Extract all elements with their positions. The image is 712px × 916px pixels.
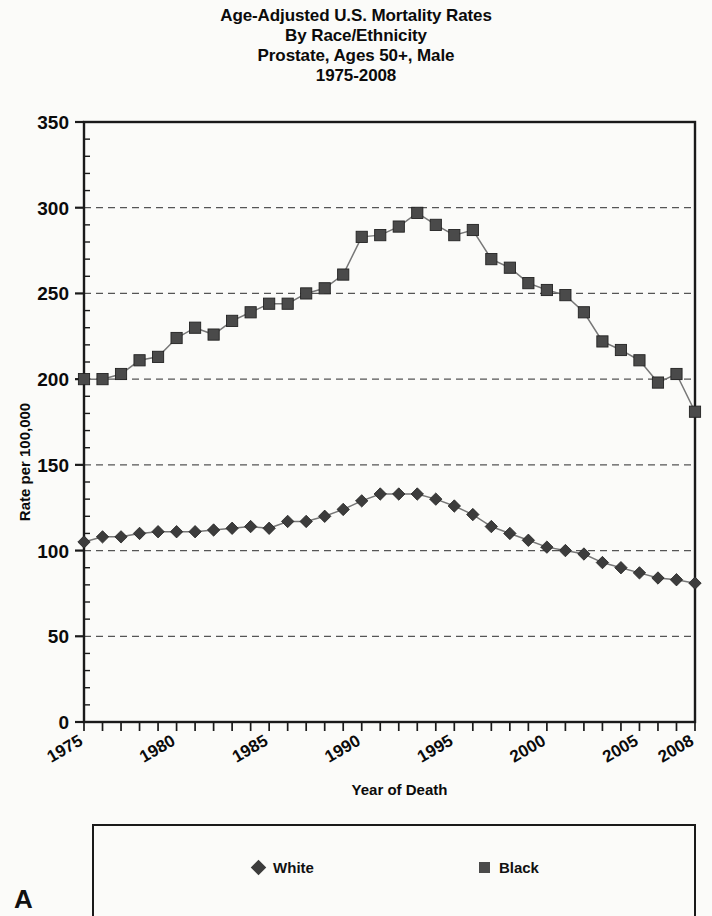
- data-point-black: [319, 283, 330, 294]
- data-point-white: [522, 534, 534, 546]
- data-point-white: [170, 526, 182, 538]
- chart-page: Age-Adjusted U.S. Mortality Rates By Rac…: [0, 0, 712, 916]
- series-line-black: [84, 213, 695, 412]
- data-point-white: [430, 493, 442, 505]
- data-point-white: [281, 515, 293, 527]
- x-tick-label: 2000: [507, 731, 549, 766]
- x-tick-label: 1985: [229, 731, 271, 766]
- square-marker-icon: [479, 862, 490, 873]
- data-point-black: [301, 288, 312, 299]
- data-point-white: [504, 527, 516, 539]
- panel-label: A: [14, 884, 33, 915]
- data-point-white: [485, 520, 497, 532]
- y-tick-label: 0: [58, 712, 69, 733]
- data-point-black: [634, 355, 645, 366]
- x-tick-label: 2008: [655, 731, 697, 766]
- data-point-white: [337, 503, 349, 515]
- legend-label-white: White: [273, 859, 314, 876]
- data-point-white: [207, 524, 219, 536]
- axis-ticks: [75, 122, 695, 731]
- plot-frame: [84, 122, 695, 722]
- data-point-black: [171, 332, 182, 343]
- x-tick-label: 2005: [599, 731, 641, 766]
- data-point-white: [133, 527, 145, 539]
- data-point-white: [189, 526, 201, 538]
- y-tick-label: 250: [37, 283, 69, 304]
- data-point-black: [689, 406, 700, 417]
- data-point-black: [282, 298, 293, 309]
- data-point-white: [541, 541, 553, 553]
- x-tick-label: 1990: [321, 731, 363, 766]
- data-point-white: [652, 572, 664, 584]
- data-point-black: [208, 329, 219, 340]
- data-point-white: [689, 577, 701, 589]
- diamond-marker-icon: [251, 860, 267, 876]
- data-point-white: [356, 495, 368, 507]
- data-point-black: [449, 230, 460, 241]
- data-point-white: [115, 531, 127, 543]
- data-point-black: [486, 254, 497, 265]
- data-point-white: [393, 488, 405, 500]
- data-point-black: [523, 278, 534, 289]
- series-line-white: [84, 494, 695, 583]
- data-point-white: [96, 531, 108, 543]
- data-point-black: [597, 336, 608, 347]
- data-point-white: [578, 548, 590, 560]
- plot-border: [84, 122, 695, 722]
- legend-entry-white[interactable]: White: [253, 859, 314, 876]
- data-point-white: [559, 544, 571, 556]
- gridlines: [84, 208, 695, 637]
- legend-label-black: Black: [499, 859, 539, 876]
- y-tick-label: 350: [37, 112, 69, 133]
- data-point-white: [244, 520, 256, 532]
- chart-area: 050100150200250300350 197519801985199019…: [0, 0, 712, 916]
- data-point-black: [152, 351, 163, 362]
- data-point-black: [227, 315, 238, 326]
- data-point-white: [226, 522, 238, 534]
- data-point-white: [263, 522, 275, 534]
- legend-items: White Black: [94, 859, 698, 876]
- data-point-black: [245, 307, 256, 318]
- y-tick-label: 150: [37, 455, 69, 476]
- legend: White Black: [92, 824, 696, 916]
- data-series: [78, 207, 701, 589]
- data-point-white: [448, 500, 460, 512]
- data-point-white: [411, 488, 423, 500]
- data-point-white: [152, 526, 164, 538]
- data-point-black: [115, 368, 126, 379]
- data-point-black: [78, 374, 89, 385]
- data-point-white: [670, 574, 682, 586]
- data-point-black: [541, 284, 552, 295]
- y-axis-title: Rate per 100,000: [16, 403, 33, 521]
- data-point-white: [633, 567, 645, 579]
- data-point-white: [467, 508, 479, 520]
- data-point-black: [504, 262, 515, 273]
- data-point-black: [560, 290, 571, 301]
- data-point-white: [319, 510, 331, 522]
- data-point-white: [374, 488, 386, 500]
- x-tick-label: 1975: [44, 731, 86, 766]
- x-tick-label: 1980: [136, 731, 178, 766]
- data-point-black: [467, 224, 478, 235]
- x-axis-tick-labels: 19751980198519901995200020052008: [44, 731, 697, 766]
- data-point-black: [375, 230, 386, 241]
- data-point-white: [615, 562, 627, 574]
- data-point-black: [393, 221, 404, 232]
- data-point-black: [264, 298, 275, 309]
- data-point-black: [134, 355, 145, 366]
- data-point-black: [356, 231, 367, 242]
- y-tick-label: 300: [37, 198, 69, 219]
- data-point-black: [97, 374, 108, 385]
- data-point-black: [412, 207, 423, 218]
- legend-entry-black[interactable]: Black: [479, 859, 539, 876]
- mortality-rate-line-chart: 050100150200250300350 197519801985199019…: [0, 0, 712, 916]
- y-tick-label: 50: [48, 626, 69, 647]
- data-point-black: [430, 219, 441, 230]
- data-point-black: [189, 322, 200, 333]
- y-tick-label: 200: [37, 369, 69, 390]
- y-tick-label: 100: [37, 541, 69, 562]
- data-point-black: [671, 368, 682, 379]
- data-point-white: [596, 556, 608, 568]
- x-tick-label: 1995: [414, 731, 456, 766]
- data-point-white: [300, 515, 312, 527]
